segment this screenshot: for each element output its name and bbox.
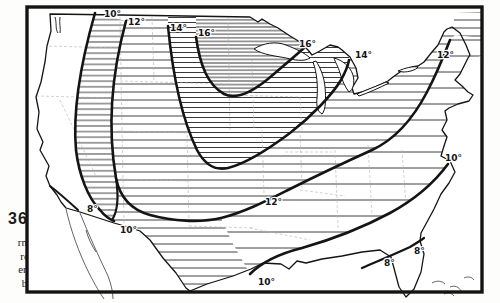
scanned-page: { "page": { "background": "#fdfdfb", "fi… <box>0 0 500 303</box>
isoline-label-8deg: 8° <box>87 204 98 214</box>
isoline-label-14deg: 14° <box>170 23 187 33</box>
isoline-label-10deg: 10° <box>258 277 275 287</box>
isoline-label-10deg: 10° <box>120 225 137 235</box>
isoline-label-12deg: 12° <box>437 50 454 60</box>
isoline-label-16deg: 16° <box>299 39 316 49</box>
isoline-map: 10°12°14°16°16°14°12°10°12°10°8°8°8°10° <box>0 0 500 303</box>
isoline-label-10deg: 10° <box>445 153 462 163</box>
isoline-label-16deg: 16° <box>198 28 215 38</box>
isoline-label-8deg: 8° <box>384 258 395 268</box>
isoline-label-12deg: 12° <box>128 17 145 27</box>
isoline-label-10deg: 10° <box>104 9 121 19</box>
isoline-label-14deg: 14° <box>355 50 372 60</box>
isoline-label-12deg: 12° <box>265 197 282 207</box>
isoline-label-8deg: 8° <box>414 246 425 256</box>
